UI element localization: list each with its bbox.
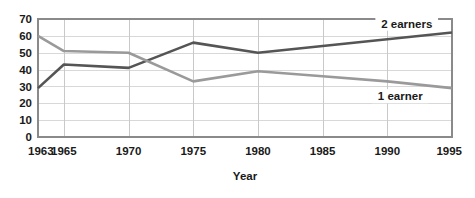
y-tick-label: 0 bbox=[26, 131, 32, 143]
chart-canvas: 010203040506070 196319651970197519801985… bbox=[0, 0, 475, 198]
y-tick-label: 60 bbox=[19, 30, 32, 42]
y-tick-label: 40 bbox=[19, 64, 32, 76]
x-tick-label: 1995 bbox=[436, 145, 462, 157]
y-tick-label: 10 bbox=[19, 114, 32, 126]
y-tick-label: 30 bbox=[19, 81, 32, 93]
x-tick-label: 1975 bbox=[180, 145, 206, 157]
y-tick-label: 20 bbox=[19, 97, 32, 109]
y-tick-label: 50 bbox=[19, 47, 32, 59]
x-tick-label: 1970 bbox=[116, 145, 142, 157]
x-tick-label: 1980 bbox=[245, 145, 271, 157]
x-tick-label: 1990 bbox=[375, 145, 401, 157]
x-tick-label: 1965 bbox=[51, 145, 77, 157]
line-chart: 010203040506070 196319651970197519801985… bbox=[0, 0, 475, 198]
y-tick-label: 70 bbox=[19, 13, 32, 25]
x-tick-label: 1985 bbox=[310, 145, 336, 157]
series-label-2-earners: 2 earners bbox=[381, 18, 432, 30]
x-axis-title: Year bbox=[233, 170, 258, 182]
series-label-1-earner: 1 earner bbox=[378, 90, 423, 102]
x-tick-label: 1963 bbox=[28, 145, 54, 157]
